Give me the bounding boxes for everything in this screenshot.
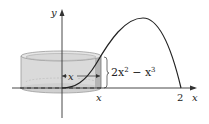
cylindrical-shell — [21, 51, 101, 93]
height-brace — [104, 57, 109, 88]
y-axis-arrow-icon — [60, 9, 65, 16]
height-expression: 2x2 − x3 — [111, 66, 156, 79]
y-axis-label: y — [50, 7, 57, 18]
radius-label: x — [68, 71, 74, 82]
x-tick-2-label: 2 — [177, 92, 183, 103]
x-axis-label: x — [192, 92, 198, 103]
shell-method-diagram: x 2x2 − x3 y x x 2 — [0, 0, 209, 124]
x-axis-arrow-icon — [190, 86, 197, 91]
x-tick-label: x — [96, 92, 102, 103]
